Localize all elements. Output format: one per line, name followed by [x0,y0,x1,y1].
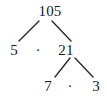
node-factor-right-level2: 3 [92,79,100,94]
branch-21-to-7 [55,58,70,77]
node-factor-left-level2: 7 [44,79,52,94]
multiplication-dot-level2: · [68,79,73,94]
branch-105-to-21 [52,21,71,41]
multiplication-dot-level1: · [36,43,41,58]
branch-21-to-3 [75,58,93,77]
branch-105-to-5 [19,21,39,41]
node-factor-right-level1: 21 [58,43,73,58]
factor-tree-diagram: 105 5 · 21 7 · 3 [0,0,107,99]
node-root: 105 [38,4,61,19]
node-factor-left-level1: 5 [10,43,18,58]
